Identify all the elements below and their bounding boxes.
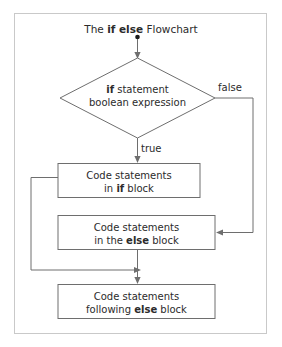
flowchart-canvas: The if else Flowchart if statement boole… [0,0,282,347]
flowchart-connectors [0,0,282,347]
arrowhead-true [134,156,140,163]
following-else-box [58,285,215,319]
if-block-box [58,164,200,198]
arrowhead-false [216,229,223,235]
arrowhead-to-following-else [134,277,140,284]
edge-false-to-else-block [215,98,253,233]
start-dot [135,35,140,40]
else-block-box [58,216,215,250]
decision-diamond [60,58,215,138]
